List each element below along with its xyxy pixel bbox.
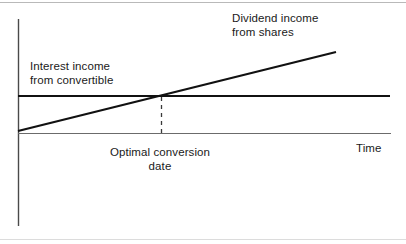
chart-plot-area <box>0 0 406 244</box>
convertible-conversion-chart: Interest income from convertible Dividen… <box>0 0 406 244</box>
interest-income-label: Interest income from convertible <box>30 60 113 87</box>
dividend-income-label: Dividend income from shares <box>232 12 319 39</box>
optimal-conversion-label: Optimal conversion date <box>62 146 258 173</box>
time-axis-label: Time <box>356 142 382 156</box>
